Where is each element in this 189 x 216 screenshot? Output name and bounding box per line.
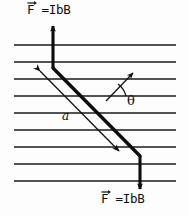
magnetic-force-diagram: F =IbB F =IbB θ a xyxy=(0,0,189,216)
force-label-bottom: F =IbB xyxy=(101,193,144,206)
diagram-canvas xyxy=(0,0,189,216)
length-label-a: a xyxy=(62,110,69,122)
length-dimension-arrow xyxy=(40,71,119,151)
magnetic-field-lines xyxy=(14,45,176,181)
force-vector-symbol-top: F =IbB xyxy=(27,4,70,17)
force-label-bottom-text: F =IbB xyxy=(101,191,144,206)
force-vector-symbol-bottom: F =IbB xyxy=(101,193,144,206)
force-label-top-text: F =IbB xyxy=(27,2,70,17)
angle-label-theta: θ xyxy=(127,94,135,107)
angle-arc xyxy=(118,84,126,96)
force-label-top: F =IbB xyxy=(27,4,70,17)
